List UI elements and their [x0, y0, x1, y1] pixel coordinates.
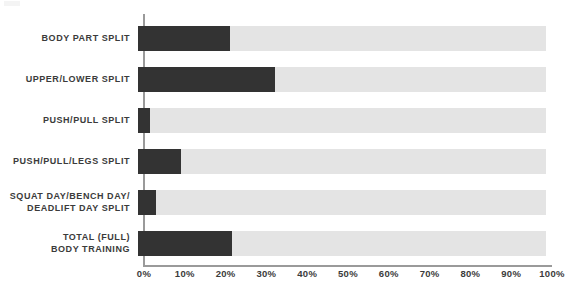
bar-fill — [138, 67, 275, 92]
x-axis-line — [143, 265, 552, 267]
bar-row: TOTAL (FULL) BODY TRAINING — [0, 223, 569, 264]
bar-fill — [138, 108, 150, 133]
bar-category-label: BODY PART SPLIT — [0, 33, 138, 45]
bar-row: PUSH/PULL SPLIT — [0, 100, 569, 141]
x-axis-tick-label: 50% — [338, 268, 358, 279]
bar-track — [138, 108, 546, 133]
bar-track — [138, 67, 546, 92]
bar-row: BODY PART SPLIT — [0, 18, 569, 59]
bar-category-label: PUSH/PULL/LEGS SPLIT — [0, 156, 138, 168]
x-axis-tick-label: 100% — [539, 268, 565, 279]
bar-row: PUSH/PULL/LEGS SPLIT — [0, 141, 569, 182]
bar-category-label: SQUAT DAY/BENCH DAY/ DEADLIFT DAY SPLIT — [0, 191, 138, 214]
bar-fill — [138, 231, 232, 256]
x-axis-tick-label: 10% — [175, 268, 195, 279]
bar-category-label: TOTAL (FULL) BODY TRAINING — [0, 232, 138, 255]
x-axis-tick-label: 30% — [256, 268, 276, 279]
horizontal-bar-chart: BODY PART SPLITUPPER/LOWER SPLITPUSH/PUL… — [0, 0, 569, 293]
bar-category-label: UPPER/LOWER SPLIT — [0, 74, 138, 86]
bar-fill — [138, 149, 181, 174]
x-axis-tick-labels: 0%10%20%30%40%50%60%70%80%90%100% — [144, 268, 552, 288]
x-axis-tick-label: 90% — [501, 268, 521, 279]
bar-row: SQUAT DAY/BENCH DAY/ DEADLIFT DAY SPLIT — [0, 182, 569, 223]
x-axis-tick-label: 40% — [297, 268, 317, 279]
x-axis-tick-label: 80% — [460, 268, 480, 279]
bar-track — [138, 190, 546, 215]
bar-track — [138, 149, 546, 174]
plot-area: BODY PART SPLITUPPER/LOWER SPLITPUSH/PUL… — [0, 0, 569, 293]
bar-fill — [138, 26, 230, 51]
bar-fill — [138, 190, 156, 215]
x-axis-tick-label: 20% — [216, 268, 236, 279]
bar-track — [138, 231, 546, 256]
bar-track — [138, 26, 546, 51]
x-axis-tick-label: 70% — [420, 268, 440, 279]
bar-row: UPPER/LOWER SPLIT — [0, 59, 569, 100]
x-axis-tick-label: 60% — [379, 268, 399, 279]
bar-category-label: PUSH/PULL SPLIT — [0, 115, 138, 127]
x-axis-tick-label: 0% — [137, 268, 151, 279]
bar-rows: BODY PART SPLITUPPER/LOWER SPLITPUSH/PUL… — [0, 18, 569, 264]
